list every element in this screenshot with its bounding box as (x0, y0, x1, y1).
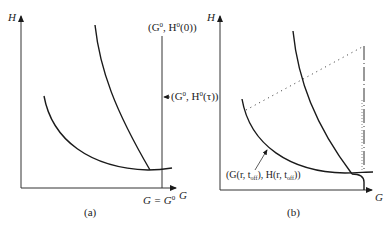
steep-curve-b (293, 31, 352, 174)
h-axis-label-b: H (207, 12, 215, 23)
lower-curve-b (242, 99, 373, 173)
dotted-line (246, 46, 364, 110)
figure-canvas (0, 0, 389, 227)
g-axis-label-b: G (375, 192, 383, 203)
h-axis-label-a: H (8, 12, 16, 23)
panel-b (220, 16, 373, 190)
curve-label-arrow (255, 150, 267, 170)
g-equals-g0-label: G = G0 (143, 195, 175, 206)
g-axis-label-a: G (179, 190, 187, 201)
top-point-label: (G0, H0(0)) (148, 22, 197, 33)
caption-a: (a) (84, 207, 96, 218)
hook-curve (352, 174, 364, 190)
caption-b: (b) (287, 207, 300, 218)
panel-a (21, 16, 176, 188)
steep-curve-a (95, 25, 150, 170)
side-point-label: (G0, H0(τ)) (171, 91, 218, 102)
curve-label-b: (G(r, toff), H(r, toff)) (226, 170, 301, 181)
lower-curve-a (44, 96, 172, 170)
